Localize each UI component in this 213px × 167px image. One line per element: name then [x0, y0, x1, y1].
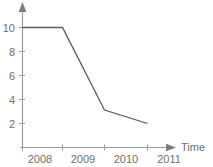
y-tick-label-2: 2: [9, 118, 15, 130]
y-tick-label-10: 10: [3, 22, 15, 34]
chart-svg: 10 8 6 4 2 2008 2009 2010 2011 Time: [0, 0, 213, 167]
x-axis-arrow-icon: [166, 144, 176, 151]
x-axis: [20, 144, 176, 151]
data-series-line: [23, 28, 148, 124]
y-tick-label-8: 8: [9, 46, 15, 58]
y-tick-label-4: 4: [9, 94, 15, 106]
y-axis-arrow-icon: [19, 2, 27, 12]
line-chart-figure: 10 8 6 4 2 2008 2009 2010 2011 Time: [0, 0, 213, 167]
y-axis-tick-labels: 10 8 6 4 2: [3, 22, 15, 130]
y-tick-label-6: 6: [9, 70, 15, 82]
x-tick-label-2008: 2008: [28, 153, 52, 165]
x-axis-label: Time: [181, 141, 205, 153]
x-tick-label-2009: 2009: [71, 153, 95, 165]
x-axis-tick-labels: 2008 2009 2010 2011: [28, 153, 181, 165]
x-tick-label-2011: 2011: [157, 153, 181, 165]
x-tick-label-2010: 2010: [114, 153, 138, 165]
